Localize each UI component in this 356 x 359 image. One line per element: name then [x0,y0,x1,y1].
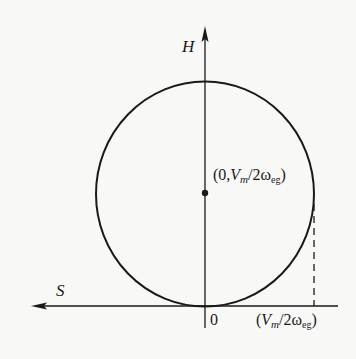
radius-label-sub: eg [302,319,311,330]
center-label-var: V [230,166,240,183]
center-label-slash: /2ω [248,166,271,183]
center-point-label: (0,Vm/2ωeg) [213,167,286,185]
radius-label-slash: /2ω [279,311,302,328]
center-point-dot [202,190,208,196]
s-axis-label: S [56,282,65,299]
origin-label: 0 [210,312,218,328]
h-axis-label: H [182,38,194,55]
center-label-sub: eg [271,174,280,185]
diagram-canvas: H S 0 (0,Vm/2ωeg) (Vm/2ωeg) [0,0,356,359]
center-label-var-sub: m [240,173,248,185]
center-label-prefix: (0, [213,166,230,183]
radius-label-suffix: ) [312,311,317,328]
radius-marker-label: (Vm/2ωeg) [256,312,317,330]
diagram-graphics [0,0,356,359]
radius-label-var: V [261,311,271,328]
center-label-suffix: ) [281,166,286,183]
radius-label-var-sub: m [271,318,279,330]
